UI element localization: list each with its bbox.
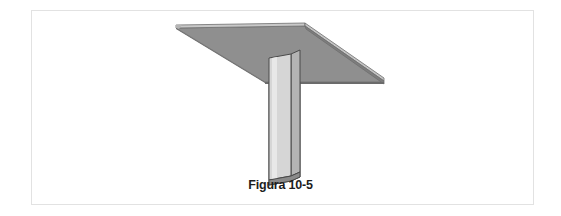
column-upper-highlight (272, 57, 277, 179)
column-upper-side-face (291, 50, 300, 176)
figure-caption: Figura 10-5 (0, 178, 561, 192)
column-upper-segment (269, 50, 300, 185)
figure-page: Figura 10-5 (0, 0, 561, 216)
